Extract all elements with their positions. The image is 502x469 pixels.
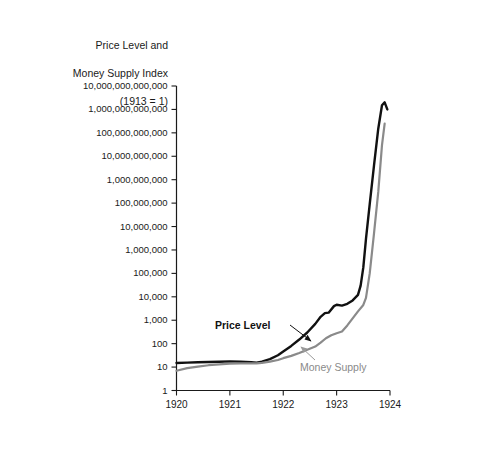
x-axis-tick-label: 1922: [272, 399, 294, 410]
price-level-leader-arrow: [305, 335, 312, 342]
y-axis-tick-label: 1,000,000,000: [28, 175, 168, 185]
series-line-money-supply: [177, 124, 385, 371]
y-axis-tick-label: 1,000,000,000,000: [28, 104, 168, 114]
chart-plot-area: [0, 0, 502, 469]
y-axis-tick-label: 10,000,000,000,000: [28, 81, 168, 91]
x-axis-tick-label: 1921: [219, 399, 241, 410]
figure-canvas: Price Level and Money Supply Index (1913…: [0, 0, 502, 469]
price-level-series-label: Price Level: [215, 319, 270, 331]
series-line-price-level: [177, 102, 388, 363]
y-axis-tick-label: 10: [28, 362, 168, 372]
y-axis-tick-label: 100: [28, 339, 168, 349]
axis-lines: [177, 86, 391, 391]
y-axis-ticks: [172, 86, 177, 391]
x-axis-tick-label: 1923: [326, 399, 348, 410]
y-axis-tick-label: 100,000,000: [28, 198, 168, 208]
y-axis-tick-label: 10,000: [28, 292, 168, 302]
y-axis-tick-label: 1: [28, 386, 168, 396]
y-axis-tick-label: 100,000,000,000: [28, 128, 168, 138]
y-axis-tick-label: 10,000,000: [28, 222, 168, 232]
money-supply-series-label: Money Supply: [300, 361, 367, 373]
y-axis-tick-label: 100,000: [28, 268, 168, 278]
series-paths: [177, 102, 388, 370]
x-axis-tick-label: 1924: [379, 399, 401, 410]
y-axis-tick-label: 1,000,000: [28, 245, 168, 255]
x-axis-ticks: [177, 391, 391, 396]
y-axis-tick-label: 1,000: [28, 315, 168, 325]
y-axis-tick-label: 10,000,000,000: [28, 151, 168, 161]
x-axis-tick-label: 1920: [165, 399, 187, 410]
